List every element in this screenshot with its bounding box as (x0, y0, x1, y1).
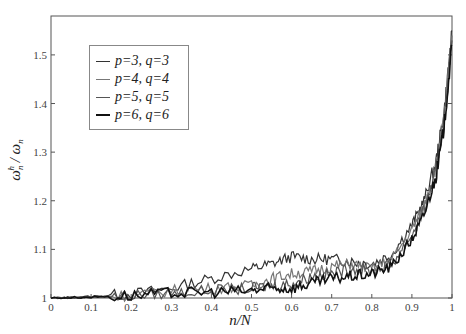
svg-text:1.2: 1.2 (33, 195, 47, 207)
chart-area: 00.10.20.30.40.50.60.70.80.9111.11.21.31… (0, 0, 466, 334)
svg-text:1.5: 1.5 (33, 49, 47, 61)
svg-text:0.9: 0.9 (405, 301, 419, 313)
legend: p=3, q=3 p=4, q=4 p=5, q=5 p=6, q=6 (89, 45, 189, 130)
svg-text:0.7: 0.7 (325, 301, 339, 313)
legend-item: p=6, q=6 (96, 106, 188, 124)
svg-text:0.2: 0.2 (124, 301, 138, 313)
legend-label: p=3, q=3 (115, 53, 169, 69)
legend-label: p=4, q=4 (115, 71, 169, 87)
legend-item: p=5, q=5 (96, 88, 188, 106)
svg-text:0.1: 0.1 (84, 301, 98, 313)
svg-text:1.1: 1.1 (33, 243, 47, 255)
svg-text:1.4: 1.4 (33, 98, 47, 110)
svg-text:0.6: 0.6 (285, 301, 299, 313)
svg-text:1: 1 (42, 292, 48, 304)
legend-item: p=3, q=3 (96, 52, 188, 70)
svg-text:0.4: 0.4 (205, 301, 219, 313)
svg-text:1: 1 (449, 301, 455, 313)
legend-swatch-icon (96, 61, 110, 62)
x-axis-label: n/N (229, 312, 252, 328)
legend-swatch-icon (96, 79, 110, 80)
y-axis-label: ωnh / ωn (6, 139, 25, 181)
legend-swatch-icon (96, 97, 110, 98)
legend-swatch-icon (96, 114, 110, 116)
svg-text:0.3: 0.3 (164, 301, 178, 313)
svg-text:0.8: 0.8 (365, 301, 379, 313)
svg-text:0: 0 (48, 301, 54, 313)
legend-label: p=5, q=5 (115, 89, 169, 105)
legend-item: p=4, q=4 (96, 70, 188, 88)
legend-label: p=6, q=6 (115, 107, 169, 123)
svg-text:1.3: 1.3 (33, 146, 47, 158)
